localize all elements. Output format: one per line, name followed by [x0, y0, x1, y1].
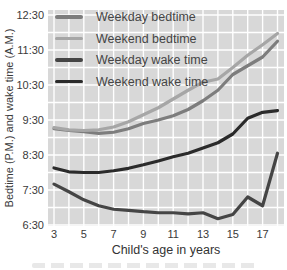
- x-tick-label: 15: [222, 228, 244, 241]
- x-tick-label: 13: [192, 228, 214, 241]
- weekend-bedtime-line-swatch: [55, 37, 83, 41]
- legend: Weekday bedtime Weekend bedtime Weekday …: [55, 9, 208, 95]
- weekday-bedtime-line-swatch: [55, 15, 83, 19]
- legend-label: Weekday wake time: [96, 53, 208, 67]
- y-axis-title: Bedtime (P.M.) and wake time (A.M.): [3, 29, 15, 208]
- y-tick-label: 12:30: [0, 8, 44, 22]
- legend-item-weekend-wake-time: Weekend wake time: [55, 74, 208, 90]
- legend-label: Weekday bedtime: [96, 10, 196, 24]
- x-tick-label: 5: [73, 228, 95, 241]
- x-tick-label: 7: [103, 228, 125, 241]
- bedtime-wake-time-chart: Weekday bedtime Weekend bedtime Weekday …: [0, 0, 287, 270]
- legend-item-weekday-bedtime: Weekday bedtime: [55, 9, 208, 25]
- x-tick-label: 11: [162, 228, 184, 241]
- legend-label: Weekend bedtime: [96, 32, 197, 46]
- x-tick-label: 9: [132, 228, 154, 241]
- legend-item-weekday-wake-time: Weekday wake time: [55, 52, 208, 68]
- cropped-caption-remnant: [32, 263, 258, 268]
- legend-label: Weekend wake time: [96, 75, 208, 89]
- weekend-wake-time-line-swatch: [55, 80, 83, 84]
- weekday-wake-time-line-swatch: [55, 58, 83, 62]
- x-axis-title: Child's age in years: [48, 243, 284, 257]
- x-tick-label: 3: [43, 228, 65, 241]
- y-tick-label: 6:30: [0, 218, 44, 232]
- x-tick-label: 17: [252, 228, 274, 241]
- legend-item-weekend-bedtime: Weekend bedtime: [55, 31, 208, 47]
